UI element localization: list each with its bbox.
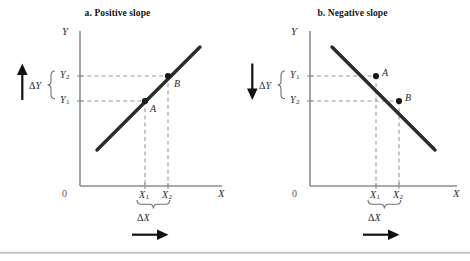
x-first-tick-label: X1: [370, 190, 380, 201]
slope-line: [97, 47, 200, 150]
delta-x-label: ΔX: [137, 213, 150, 223]
delta-x-label: ΔX: [368, 213, 381, 223]
y-upper-tick-label: Y1: [290, 70, 299, 81]
panel-positive-slope: a. Positive slope: [0, 0, 235, 250]
delta-y-label: ΔY: [259, 81, 271, 91]
point-a-label: A: [382, 68, 388, 78]
origin-label: 0: [62, 189, 67, 199]
x-brace: [368, 200, 401, 208]
origin-label: 0: [292, 189, 297, 199]
y-upper-tick-label: Y2: [60, 70, 69, 81]
point-b-dot: [165, 73, 171, 79]
point-b-label: B: [405, 93, 411, 103]
delta-y-arrow-down: [247, 64, 258, 101]
x-brace: [137, 200, 170, 208]
delta-y-label: ΔY: [29, 81, 41, 91]
panel-positive-graphic: [0, 0, 235, 250]
y-lower-tick-label: Y1: [60, 95, 69, 106]
y-axis-label: Y: [62, 27, 68, 38]
x-first-tick-label: X1: [139, 190, 149, 201]
point-b-dot: [396, 98, 402, 104]
delta-y-arrow-up: [17, 64, 28, 101]
panel-negative-slope: b. Negative slope: [235, 0, 470, 250]
x-second-tick-label: X2: [162, 190, 172, 201]
y-lower-tick-label: Y2: [290, 95, 299, 106]
point-a-label: A: [150, 104, 156, 114]
x-axis-label: X: [218, 189, 224, 200]
x-axis-label: X: [453, 189, 459, 200]
panel-negative-graphic: [235, 0, 470, 250]
y-brace: [48, 71, 55, 99]
x-second-tick-label: X2: [393, 190, 403, 201]
delta-x-arrow-right: [363, 229, 400, 240]
delta-x-arrow-right: [132, 229, 169, 240]
point-a-dot: [142, 98, 148, 104]
point-a-dot: [373, 73, 379, 79]
bottom-divider: [0, 252, 470, 254]
figure-root: a. Positive slope: [0, 0, 470, 261]
y-brace: [278, 71, 285, 99]
slope-line: [332, 47, 435, 150]
y-axis-label: Y: [291, 27, 297, 38]
point-b-label: B: [174, 79, 180, 89]
